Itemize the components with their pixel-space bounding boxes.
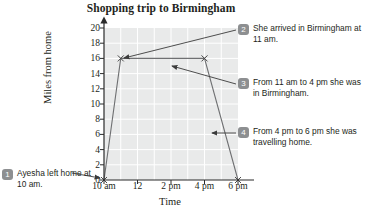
callout-1: 1 Ayesha left home at 10 am.	[2, 168, 98, 190]
y-tick-label: 8	[78, 115, 100, 125]
callout-text-4: From 4 pm to 6 pm she was travelling hom…	[253, 126, 364, 148]
x-tick-label: 12	[133, 181, 143, 192]
callout-text-1: Ayesha left home at 10 am.	[17, 168, 97, 190]
y-axis-tick-labels: 20 18 16 14 12 10 8 6 4 2 0	[76, 28, 100, 180]
chart-figure: Shopping trip to Birmingham	[0, 0, 365, 224]
y-tick-label: 10	[78, 100, 100, 110]
callout-text-2: She arrived in Birmingham at 11 am.	[253, 23, 364, 45]
y-tick-label: 12	[78, 85, 100, 95]
y-tick-label: 6	[78, 130, 100, 140]
callout-badge-2: 2	[238, 24, 249, 35]
x-tick-label: 6 pm	[228, 181, 247, 192]
callout-2: 2 She arrived in Birmingham at 11 am.	[238, 23, 364, 45]
chart-title: Shopping trip to Birmingham	[66, 2, 256, 14]
y-tick-label: 4	[78, 146, 100, 156]
x-tick-label: 2 pm	[161, 181, 180, 192]
callout-3: 3 From 11 am to 4 pm she was in Birmingh…	[238, 77, 364, 99]
callout-badge-4: 4	[238, 127, 249, 138]
y-tick-label: 20	[78, 24, 100, 34]
callout-badge-3: 3	[238, 78, 249, 89]
chart-axes	[86, 16, 256, 196]
callout-4: 4 From 4 pm to 6 pm she was travelling h…	[238, 126, 364, 148]
y-tick-label: 16	[78, 54, 100, 64]
x-tick-label: 4 pm	[195, 181, 214, 192]
y-tick-label: 18	[78, 39, 100, 49]
y-axis-title: Miles from home	[42, 13, 53, 123]
callout-badge-1: 1	[2, 169, 13, 180]
x-axis-title: Time	[120, 196, 220, 207]
y-tick-label: 14	[78, 70, 100, 80]
callout-text-3: From 11 am to 4 pm she was in Birmingham…	[253, 77, 364, 99]
x-axis-tick-labels: 10 am 12 2 pm 4 pm 6 pm	[86, 181, 261, 195]
